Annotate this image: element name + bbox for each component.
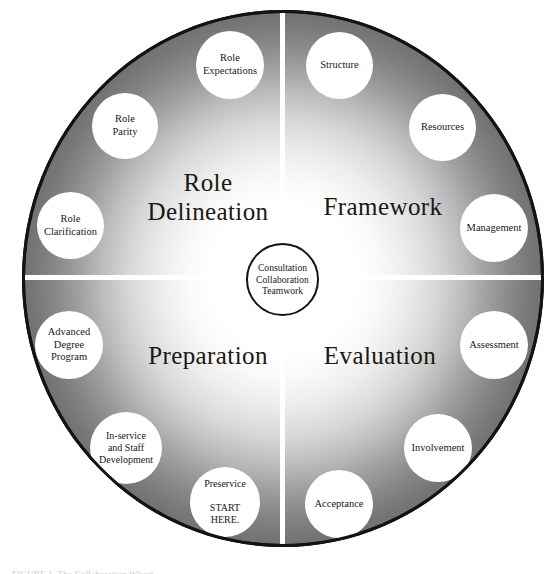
bubble-label: Management [465, 222, 524, 235]
quadrant-label-evaluation: Evaluation [300, 341, 460, 370]
quadrant-label-preparation: Preparation [128, 341, 288, 370]
center-hub-label: Consultation Collaboration Teamwork [256, 262, 309, 298]
quadrant-label-framework: Framework [298, 192, 468, 221]
bubble-label: Preservice START HERE. [202, 478, 248, 527]
bubble-label: Assessment [467, 339, 521, 352]
figure-caption: FIGURE 1. The Collaboration Wheel [12, 568, 154, 574]
bubble-label: Role Clarification [42, 213, 99, 239]
bubble-in-service-and-staff-development[interactable]: In-service and Staff Development [90, 412, 162, 484]
bubble-label: Structure [318, 59, 361, 72]
bubble-acceptance[interactable]: Acceptance [305, 470, 373, 538]
bubble-label: Advanced Degree Program [46, 326, 93, 364]
bubble-label: Involvement [409, 442, 466, 455]
bubble-assessment[interactable]: Assessment [460, 311, 528, 379]
bubble-role-clarification[interactable]: Role Clarification [37, 192, 104, 259]
quadrant-label-role-delineation: Role Delineation [128, 168, 288, 226]
bubble-involvement[interactable]: Involvement [404, 414, 472, 482]
bubble-preservice[interactable]: Preservice START HERE. [190, 467, 260, 537]
bubble-role-expectations[interactable]: Role Expectations [196, 31, 264, 99]
bubble-label: In-service and Staff Development [97, 430, 155, 467]
bubble-label: Role Expectations [201, 52, 259, 78]
bubble-advanced-degree-program[interactable]: Advanced Degree Program [35, 311, 103, 379]
bubble-resources[interactable]: Resources [409, 94, 476, 161]
center-hub[interactable]: Consultation Collaboration Teamwork [246, 243, 319, 316]
collaboration-wheel-diagram: Role Delineation Framework Preparation E… [0, 0, 559, 574]
bubble-label: Resources [419, 121, 466, 134]
bubble-management[interactable]: Management [460, 194, 528, 262]
bubble-label: Acceptance [313, 498, 366, 511]
bubble-label: Role Parity [110, 113, 139, 139]
bubble-structure[interactable]: Structure [306, 32, 373, 99]
bubble-role-parity[interactable]: Role Parity [92, 93, 158, 159]
